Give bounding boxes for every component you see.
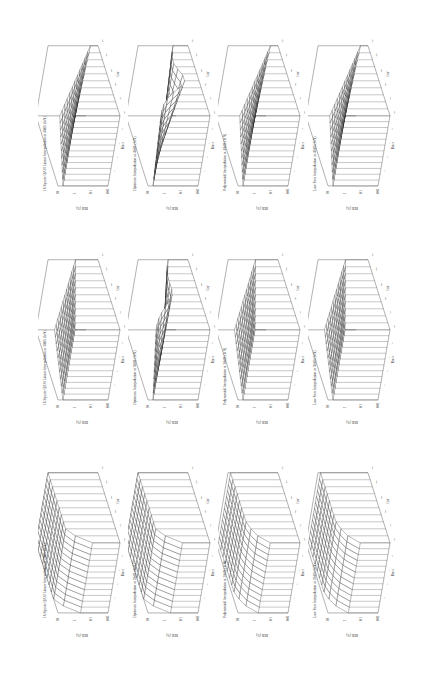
cmf-tick-label: 40 [389, 97, 392, 100]
z-tick-label: 0.01 [106, 402, 110, 408]
cmf-tick-label: 120 [191, 39, 194, 44]
cmf-tick-label: 120 [191, 253, 194, 258]
bmax-tick-label: 1 [381, 611, 384, 613]
bmax-tick-label: 9 [211, 555, 214, 557]
z-axis-label: BER (%) [166, 420, 178, 424]
z-tick-label: 0.1 [359, 617, 363, 621]
z-axis-label: BER (%) [166, 206, 178, 210]
cmf-tick-label: 100 [195, 267, 198, 272]
cmf-tick-label: 60 [204, 296, 207, 299]
cmf-tick-label: 40 [209, 523, 212, 526]
z-tick-label: 1 [163, 192, 167, 194]
cmf-tick-label: 120 [281, 466, 284, 471]
bmax-tick-label: 5 [206, 583, 209, 585]
bmax-tick-label: 1 [111, 184, 114, 186]
bmax-tick-label: 1 [381, 398, 384, 400]
bmax-tick-label: 1 [111, 611, 114, 613]
surface-plot: Low Pass Interpolation at 40dB (InN)1010… [308, 8, 398, 221]
cmf-tick-label: 80 [110, 282, 113, 285]
bmax-tick-label: 5 [116, 370, 119, 372]
z-tick-label: 10 [326, 617, 330, 621]
z-tick-label: 1 [253, 406, 257, 408]
panel-title: Polynomial Interpolation at 20dB (InN) [223, 560, 227, 618]
z-tick-label: 10 [236, 617, 240, 621]
bmax-tick-label: 5 [206, 156, 209, 158]
cmf-tick-label: 80 [110, 69, 113, 72]
panel-title: Low Pass Interpolation at 20dB (InN) [313, 563, 317, 618]
z-tick-label: 0.1 [179, 617, 183, 621]
bmax-axis-label: Bmax [301, 355, 305, 363]
surface-plot: 16 Square QAM Linear Interpolation at 20… [38, 435, 128, 648]
panel-title: 16 Square QAM Linear Interpolation at 20… [43, 543, 47, 618]
cmf-tick-label: 80 [200, 495, 203, 498]
bmax-axis-label: Bmax [211, 355, 215, 363]
cmf-axis-label: Cmf [386, 498, 390, 503]
z-tick-label: 10 [326, 404, 330, 408]
cmf-tick-label: 100 [285, 267, 288, 272]
panel-title: Optimum Interpolation at 40dB (InN) [133, 136, 137, 191]
cmf-tick-label: 60 [294, 509, 297, 512]
cmf-tick-label: 20 [393, 111, 396, 114]
surface-plot: 16 Square QAM Linear Interpolation at 40… [38, 8, 128, 221]
cmf-tick-label: 120 [371, 466, 374, 471]
cmf-tick-label: 40 [389, 523, 392, 526]
bmax-tick-label: 3 [203, 384, 206, 386]
cmf-tick-label: 120 [101, 253, 104, 258]
bmax-axis-label: Bmax [301, 568, 305, 576]
cmf-tick-label: 120 [281, 253, 284, 258]
z-tick-label: 0.1 [89, 403, 93, 407]
bmax-tick-label: 3 [293, 170, 296, 172]
bmax-tick-label: 3 [383, 384, 386, 386]
cmf-axis-label: Cmf [206, 498, 210, 503]
z-tick-label: 10 [56, 404, 60, 408]
z-tick-label: 10 [146, 404, 150, 408]
z-tick-label: 10 [236, 404, 240, 408]
bmax-tick-label: 3 [383, 170, 386, 172]
bmax-tick-label: 5 [296, 370, 299, 372]
surface-plot-panel: Optimum Interpolation at 20dB (InN)1010.… [128, 435, 218, 648]
cmf-tick-label: 60 [114, 296, 117, 299]
z-tick-label: 0.1 [269, 403, 273, 407]
z-tick-label: 10 [146, 617, 150, 621]
panel-title: Optimum Interpolation at 30dB (InN) [133, 349, 137, 404]
bmax-tick-label: 1 [291, 398, 294, 400]
surface-plot-panel: Polynomial Interpolation at 20dB (InN)10… [218, 435, 308, 648]
bmax-tick-label: 5 [386, 583, 389, 585]
surface-plot-panel: Optimum Interpolation at 40dB (InN)1010.… [128, 8, 218, 221]
cmf-tick-label: 20 [303, 111, 306, 114]
cmf-axis-label: Cmf [206, 72, 210, 77]
cmf-tick-label: 100 [375, 53, 378, 58]
bmax-tick-label: 9 [121, 342, 124, 344]
cmf-tick-label: 80 [380, 282, 383, 285]
surface-plot: 16 Square QAM Linear Interpolation at 30… [38, 221, 128, 434]
surface-plot: Optimum Interpolation at 30dB (InN)1010.… [128, 221, 218, 434]
bmax-tick-label: 3 [113, 384, 116, 386]
z-axis-label: BER (%) [76, 633, 88, 637]
z-tick-label: 10 [56, 191, 60, 195]
z-tick-label: 0.01 [196, 189, 200, 195]
cmf-axis-label: Cmf [296, 72, 300, 77]
cmf-axis-label: Cmf [116, 498, 120, 503]
cmf-tick-label: 80 [200, 282, 203, 285]
cmf-tick-label: 100 [195, 480, 198, 485]
surface-plot: Low Pass Interpolation at 20dB (InN)1010… [308, 435, 398, 648]
bmax-axis-label: Bmax [211, 142, 215, 150]
cmf-tick-label: 100 [105, 53, 108, 58]
bmax-tick-label: 9 [301, 555, 304, 557]
figure-page: 16 Square QAM Linear Interpolation at 20… [0, 0, 425, 676]
cmf-axis-label: Cmf [296, 285, 300, 290]
panel-title: 16 Square QAM Linear Interpolation at 40… [43, 116, 47, 191]
cmf-tick-label: 60 [384, 83, 387, 86]
surface-plot-panel: Polynomial Interpolation at 30dB (InN)10… [218, 221, 308, 434]
cmf-tick-label: 40 [299, 310, 302, 313]
z-tick-label: 1 [73, 619, 77, 621]
z-tick-label: 10 [56, 617, 60, 621]
bmax-tick-label: 1 [291, 184, 294, 186]
cmf-tick-label: 40 [119, 523, 122, 526]
surface-plot: Optimum Interpolation at 40dB (InN)1010.… [128, 8, 218, 221]
z-tick-label: 0.1 [179, 403, 183, 407]
panel-title: Optimum Interpolation at 20dB (InN) [133, 563, 137, 618]
bmax-tick-label: 1 [381, 184, 384, 186]
surface-plot-panel: 16 Square QAM Linear Interpolation at 40… [38, 8, 128, 221]
surface-plot-panel: Optimum Interpolation at 30dB (InN)1010.… [128, 221, 218, 434]
